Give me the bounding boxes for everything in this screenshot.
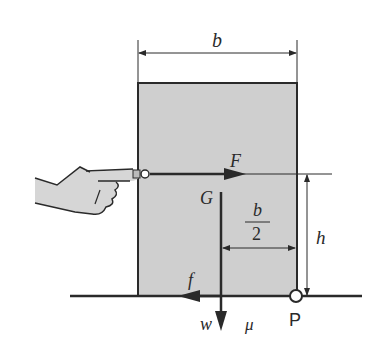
- height-label: h: [316, 227, 326, 248]
- width-dimension: b: [138, 29, 297, 83]
- tipping-block-diagram: b F G w μ b 2 h f: [0, 0, 373, 358]
- block: [138, 83, 297, 296]
- half-width-numerator: b: [253, 200, 262, 220]
- hand-icon: [35, 167, 140, 214]
- friction-coefficient-label: μ: [244, 315, 254, 334]
- weight-label: w: [200, 314, 212, 334]
- pivot-point: P: [289, 290, 302, 330]
- height-dimension: h: [307, 175, 326, 295]
- center-of-gravity-label: G: [200, 188, 213, 208]
- push-force-label: F: [229, 151, 242, 171]
- width-label: b: [212, 29, 222, 51]
- pivot-point-label: P: [289, 310, 301, 330]
- push-point: [141, 170, 149, 178]
- half-width-denominator: 2: [252, 224, 261, 244]
